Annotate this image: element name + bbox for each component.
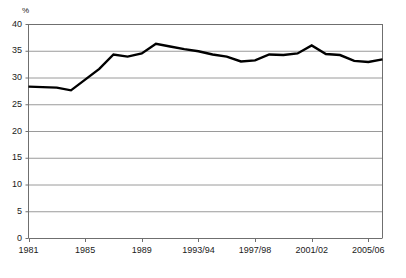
y-tick-label: 10 bbox=[2, 180, 22, 189]
y-tick-label: 30 bbox=[2, 73, 22, 82]
y-tick-label: 0 bbox=[2, 234, 22, 243]
x-tick-label: 2001/02 bbox=[282, 246, 342, 255]
x-tick-label: 1985 bbox=[55, 246, 115, 255]
y-tick-label: 15 bbox=[2, 153, 22, 162]
chart-plot-area bbox=[0, 0, 406, 278]
x-tick-label: 1981 bbox=[0, 246, 59, 255]
y-tick-label: 40 bbox=[2, 20, 22, 29]
x-tick-label: 1993/94 bbox=[168, 246, 228, 255]
y-tick-label: 20 bbox=[2, 127, 22, 136]
x-tick-label: 2005/06 bbox=[338, 246, 398, 255]
line-chart: % 0510152025303540 1981198519891993/9419… bbox=[0, 0, 406, 278]
x-tick-label: 1989 bbox=[112, 246, 172, 255]
y-tick-label: 25 bbox=[2, 100, 22, 109]
y-tick-label: 35 bbox=[2, 46, 22, 55]
y-tick-label: 5 bbox=[2, 207, 22, 216]
x-tick-label: 1997/98 bbox=[225, 246, 285, 255]
gridlines bbox=[29, 25, 383, 239]
